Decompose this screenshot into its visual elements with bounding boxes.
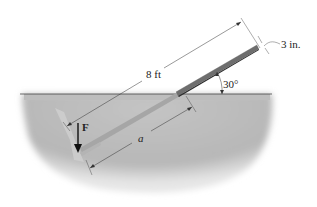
angle-indicator: 30° (215, 72, 238, 94)
embedded-length-label: a (138, 132, 144, 144)
angle-label: 30° (223, 78, 238, 90)
thickness-label: 3 in. (281, 38, 301, 50)
force-label: F (82, 121, 89, 133)
pry-bar-diagram: 8 ft 3 in. 30° F (0, 0, 317, 207)
ground (22, 94, 272, 192)
length-label: 8 ft (146, 68, 161, 80)
thickness-dimension: 3 in. (258, 36, 301, 54)
